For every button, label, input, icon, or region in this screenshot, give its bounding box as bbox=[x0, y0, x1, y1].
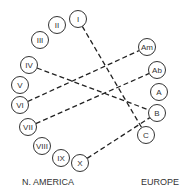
europe-node-ab: Ab bbox=[149, 62, 166, 79]
svg-text:VI: VI bbox=[16, 101, 24, 110]
diagram-canvas: IIIIIIIVVVIVIIVIIIIXXAmAbABC bbox=[0, 0, 183, 194]
north-america-node-i: I bbox=[70, 11, 87, 28]
europe-node-a: A bbox=[151, 84, 168, 101]
svg-text:IX: IX bbox=[57, 154, 65, 163]
europe-node-am: Am bbox=[139, 39, 156, 56]
svg-text:Am: Am bbox=[141, 43, 153, 52]
nodes-layer: IIIIIIIVVVIVIIVIIIIXXAmAbABC bbox=[12, 11, 168, 172]
svg-text:VIII: VIII bbox=[36, 142, 48, 151]
north-america-label: N. AMERICA bbox=[22, 177, 74, 187]
svg-text:I: I bbox=[77, 15, 79, 24]
link-vi-am bbox=[28, 51, 140, 102]
north-america-node-x: X bbox=[72, 155, 89, 172]
svg-text:VII: VII bbox=[23, 123, 33, 132]
north-america-node-vii: VII bbox=[20, 119, 37, 136]
north-america-node-vi: VI bbox=[12, 97, 29, 114]
svg-text:III: III bbox=[37, 36, 44, 45]
svg-text:V: V bbox=[17, 81, 23, 90]
north-america-node-iii: III bbox=[32, 32, 49, 49]
north-america-node-v: V bbox=[12, 77, 29, 94]
svg-text:B: B bbox=[154, 109, 159, 118]
svg-text:IV: IV bbox=[25, 61, 33, 70]
link-i-c bbox=[82, 26, 141, 127]
north-america-node-ix: IX bbox=[53, 150, 70, 167]
svg-text:Ab: Ab bbox=[152, 66, 162, 75]
link-vii-ab bbox=[36, 73, 149, 123]
north-america-node-iv: IV bbox=[21, 57, 38, 74]
svg-text:II: II bbox=[55, 21, 59, 30]
europe-node-b: B bbox=[149, 105, 166, 122]
svg-text:A: A bbox=[156, 88, 162, 97]
europe-node-c: C bbox=[138, 127, 155, 144]
svg-text:X: X bbox=[77, 159, 83, 168]
svg-text:C: C bbox=[143, 131, 149, 140]
europe-label: EUROPE bbox=[141, 177, 179, 187]
north-america-node-viii: VIII bbox=[34, 138, 51, 155]
north-america-node-ii: II bbox=[49, 17, 66, 34]
